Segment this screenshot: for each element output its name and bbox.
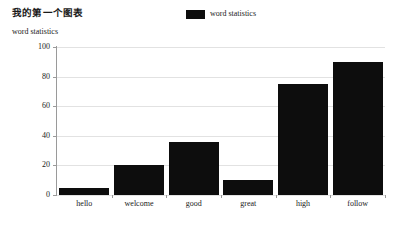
chart-legend: word statistics (186, 8, 256, 20)
x-axis-tick (276, 195, 277, 198)
x-axis-tick-label: good (186, 200, 202, 208)
bar-slot (221, 47, 276, 195)
y-axis-tick-label: 20 (42, 161, 50, 169)
x-axis-labels: hellowelcomegoodgreathighfollow (57, 197, 385, 213)
x-axis-tick-label: follow (347, 200, 368, 208)
x-axis-tick (166, 195, 167, 198)
y-axis-tick-label: 80 (42, 73, 50, 81)
bar-slot (112, 47, 167, 195)
legend-swatch-icon (186, 10, 205, 19)
x-axis-tick (112, 195, 113, 198)
bar-slot (166, 47, 221, 195)
bar[interactable] (223, 180, 273, 195)
chart-title: 我的第一个图表 (12, 9, 83, 19)
plot-area: 020406080100 (57, 47, 385, 195)
chart-subtitle: word statistics (12, 28, 58, 36)
bar[interactable] (278, 84, 328, 195)
bar-chart: 我的第一个图表 word statistics word statistics … (0, 0, 402, 225)
x-axis-tick-label: hello (76, 200, 92, 208)
x-axis-tick (385, 195, 386, 198)
x-axis-tick (330, 195, 331, 198)
bar-slot (330, 47, 385, 195)
legend-label: word statistics (210, 10, 256, 18)
x-axis-tick-label: high (296, 200, 310, 208)
bar-series (57, 47, 385, 195)
y-axis-tick-label: 100 (38, 43, 50, 51)
bar[interactable] (169, 142, 219, 195)
bar[interactable] (114, 165, 164, 195)
bar[interactable] (59, 188, 109, 195)
bar-slot (276, 47, 331, 195)
x-axis-tick-label: welcome (125, 200, 154, 208)
y-axis-tick-label: 60 (42, 102, 50, 110)
x-axis-tick (221, 195, 222, 198)
x-axis-tick-label: great (240, 200, 256, 208)
y-axis-tick-label: 40 (42, 132, 50, 140)
bar[interactable] (333, 62, 383, 195)
y-axis-tick-label: 0 (46, 191, 50, 199)
bar-slot (57, 47, 112, 195)
y-axis-tick (53, 195, 57, 196)
